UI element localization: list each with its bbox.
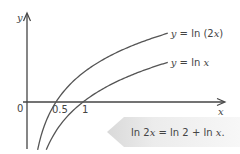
callout-text: ln 2x = ln 2 + ln x.: [131, 127, 225, 138]
curve-label-lnx: y = ln x: [170, 57, 210, 68]
origin-label: 0: [17, 103, 23, 114]
x-axis-label: x: [218, 106, 224, 117]
curve-label-ln2x: y = ln (2x): [170, 28, 224, 39]
y-axis-label: y: [16, 12, 23, 23]
x-tick-label: 1: [82, 104, 88, 115]
chart: ln 2x = ln 2 + ln x. y x 0 0.51 y = ln (…: [0, 0, 240, 154]
